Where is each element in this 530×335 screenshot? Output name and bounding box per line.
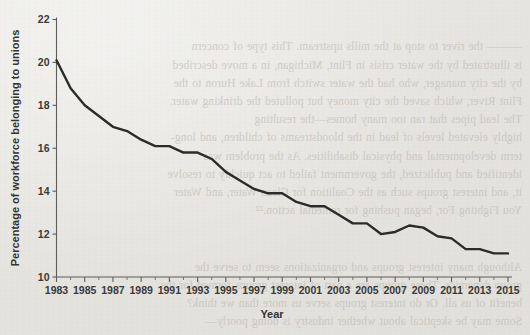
x-tick-label: 1997 xyxy=(242,284,266,296)
x-tick-group: 1983198519871989199119931995199719992001… xyxy=(45,277,520,296)
y-tick-label: 22 xyxy=(38,13,50,25)
x-tick-label: 2015 xyxy=(496,284,520,296)
plot-area xyxy=(57,60,509,253)
x-axis: 1983198519871989199119931995199719992001… xyxy=(45,277,520,296)
union-membership-line-chart: 10121416182022 1983198519871989199119931… xyxy=(0,0,530,335)
x-tick-label: 1987 xyxy=(101,284,125,296)
y-tick-label: 16 xyxy=(38,142,50,154)
y-tick-label: 14 xyxy=(38,185,50,197)
y-axis: 10121416182022 xyxy=(38,13,57,283)
x-tick-label: 1995 xyxy=(214,284,238,296)
x-axis-title: Year xyxy=(260,308,284,320)
x-tick-label: 2005 xyxy=(355,284,379,296)
x-tick-label: 2001 xyxy=(299,284,323,296)
y-tick-label: 10 xyxy=(38,271,50,283)
x-tick-label: 1999 xyxy=(271,284,295,296)
y-axis-title: Percentage of workforce belonging to uni… xyxy=(9,30,21,267)
x-tick-label: 2007 xyxy=(383,284,407,296)
x-tick-label: 1985 xyxy=(73,284,97,296)
x-tick-label: 2011 xyxy=(440,284,463,296)
y-tick-label: 20 xyxy=(38,56,50,68)
y-tick-label: 12 xyxy=(38,228,50,240)
x-tick-label: 2013 xyxy=(468,284,492,296)
series-line-union-percentage xyxy=(57,60,509,253)
x-tick-label: 1993 xyxy=(186,284,210,296)
x-tick-label: 2003 xyxy=(327,284,351,296)
x-tick-label: 2009 xyxy=(412,284,436,296)
y-tick-group: 10121416182022 xyxy=(38,13,57,283)
x-tick-label: 1983 xyxy=(45,284,69,296)
x-tick-label: 1991 xyxy=(158,284,182,296)
y-tick-label: 18 xyxy=(38,99,50,111)
x-tick-label: 1989 xyxy=(129,284,153,296)
chart-svg: 10121416182022 1983198519871989199119931… xyxy=(0,0,530,335)
